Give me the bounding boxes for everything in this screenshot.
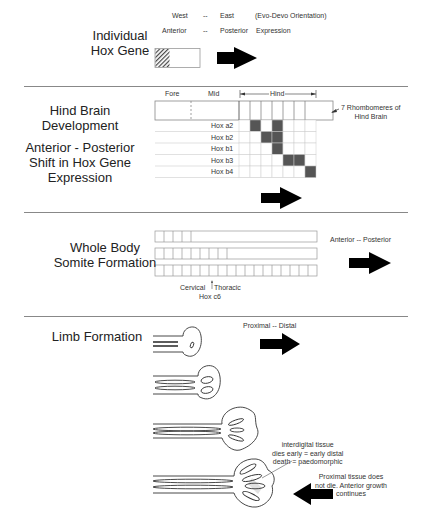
label-fore: Fore	[165, 90, 179, 97]
label-proximal-distal: Proximal -- Distal	[243, 322, 296, 329]
gene-label: Hox b2	[211, 134, 233, 141]
label-hind: Hind	[269, 90, 285, 97]
gene-label: Hox a2	[211, 122, 233, 129]
rhombomere-note: 7 Rhombomeres of Hind Brain	[341, 103, 401, 121]
limb-stage-1	[153, 327, 201, 356]
arrow-right-icon	[217, 47, 257, 69]
arrow-right-icon	[261, 187, 302, 209]
gene-label: Hox b3	[211, 157, 233, 164]
label-mid: Mid	[208, 90, 219, 97]
limb-stage-3	[153, 407, 258, 450]
label-cervical: Cervical	[180, 284, 205, 291]
arrow-right-icon	[260, 333, 300, 355]
note-interdigital: interdigital tissue dies early = early d…	[272, 441, 343, 467]
section4-title: Limb Formation	[42, 329, 152, 344]
label-hox-c6: Hox c6	[199, 293, 221, 300]
gene-label: Hox b4	[211, 168, 233, 175]
section2-title: Hind Brain Development	[10, 103, 150, 133]
divider	[24, 86, 408, 87]
label-anterior-posterior: Anterior -- Posterior	[330, 236, 391, 243]
hox-gene-box	[155, 49, 200, 68]
divider	[24, 212, 408, 213]
label-thoracic: Thoracic	[214, 284, 241, 291]
section2-subtitle: Anterior - Posterior Shift in Hox Gene E…	[0, 140, 160, 185]
divider	[24, 316, 408, 317]
gene-label: Hox b1	[211, 145, 233, 152]
section3-title: Whole Body Somite Formation	[30, 240, 180, 270]
arrow-right-icon	[349, 252, 391, 274]
note-proximal: Proximal tissue does not die. Anterior g…	[315, 473, 387, 499]
brain-bar	[155, 101, 333, 120]
limb-stage-2	[153, 366, 220, 399]
